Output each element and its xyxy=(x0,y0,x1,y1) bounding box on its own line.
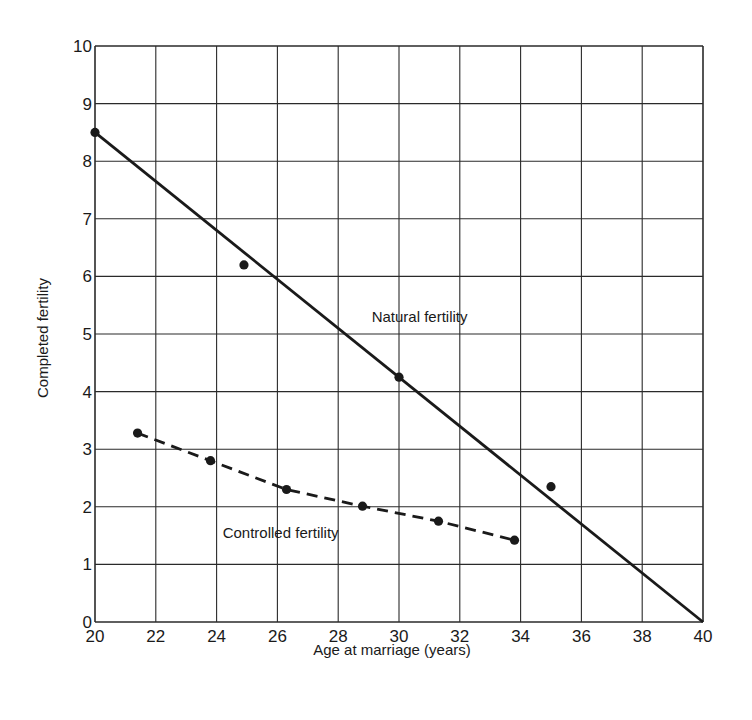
y-tick-label: 9 xyxy=(83,95,92,114)
data-point xyxy=(239,260,248,269)
y-tick-label: 5 xyxy=(83,325,92,344)
y-tick-label: 7 xyxy=(83,210,92,229)
y-axis-label: Completed fertility xyxy=(34,277,51,398)
x-tick-label: 26 xyxy=(268,627,287,646)
y-tick-label: 1 xyxy=(83,555,92,574)
grid-lines xyxy=(95,46,703,622)
y-tick-label: 6 xyxy=(83,267,92,286)
y-tick-label: 2 xyxy=(83,498,92,517)
y-tick-label: 10 xyxy=(73,37,92,56)
y-tick-label: 3 xyxy=(83,440,92,459)
x-tick-label: 36 xyxy=(572,627,591,646)
data-point xyxy=(510,536,519,545)
data-point xyxy=(394,373,403,382)
data-point xyxy=(133,428,142,437)
fertility-chart: 2022242628303234363840 012345678910 Natu… xyxy=(0,0,752,720)
y-tick-label: 0 xyxy=(83,613,92,632)
x-tick-label: 24 xyxy=(207,627,226,646)
data-point xyxy=(434,517,443,526)
x-tick-label: 34 xyxy=(511,627,530,646)
natural-fertility-series xyxy=(90,128,703,622)
y-axis-ticks: 012345678910 xyxy=(73,37,92,632)
y-tick-label: 4 xyxy=(83,383,92,402)
y-tick-label: 8 xyxy=(83,152,92,171)
data-point xyxy=(546,482,555,491)
data-point xyxy=(206,456,215,465)
data-point xyxy=(90,128,99,137)
data-point xyxy=(282,485,291,494)
x-tick-label: 38 xyxy=(633,627,652,646)
x-tick-label: 40 xyxy=(694,627,713,646)
x-tick-label: 22 xyxy=(146,627,165,646)
controlled-fertility-label: Controlled fertility xyxy=(223,524,339,541)
data-point xyxy=(358,502,367,511)
x-axis-label: Age at marriage (years) xyxy=(313,641,471,658)
natural-fertility-label: Natural fertility xyxy=(372,308,468,325)
